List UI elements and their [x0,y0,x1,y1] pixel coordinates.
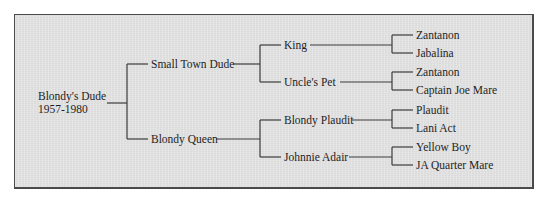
dam-sire-name: Blondy Plaudit [281,114,356,126]
sire-dam-dam-name: Captain Joe Mare [413,84,500,96]
dam-dam-dam-name: JA Quarter Mare [413,159,496,171]
root-horse-name: Blondy's Dude [38,90,106,103]
sire-name: Small Town Dude [148,58,237,70]
root-horse: Blondy's Dude 1957-1980 [38,90,106,115]
dam-name: Blondy Queen [148,133,221,145]
root-horse-years: 1957-1980 [38,103,106,116]
dam-sire-dam-name: Lani Act [413,122,459,134]
sire-sire-dam-name: Jabalina [413,47,457,59]
dam-dam-name: Johnnie Adair [281,151,351,163]
dam-dam-sire-name: Yellow Boy [413,141,474,153]
sire-dam-name: Uncle's Pet [281,76,339,88]
dam-sire-sire-name: Plaudit [413,104,452,116]
sire-sire-sire-name: Zantanon [413,29,462,41]
sire-dam-sire-name: Zantanon [413,66,462,78]
sire-sire-name: King [281,39,310,51]
